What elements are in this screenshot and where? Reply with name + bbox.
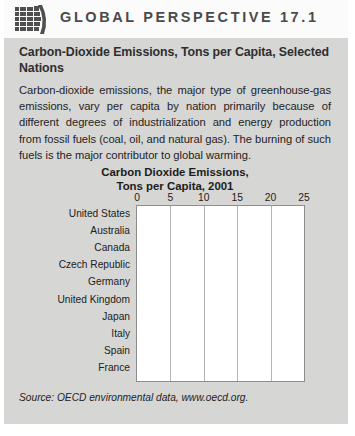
bar-row: United States [137,211,265,222]
x-tick-label-5: 5 [168,192,174,203]
bar-row: United Kingdom [137,297,200,308]
x-axis-tick-labels: 0510152025 [136,192,308,206]
bar-row: Czech Republic [137,262,214,273]
chart-title-line-1: Carbon Dioxide Emissions, [19,165,331,179]
category-label-united-kingdom: United Kingdom [58,294,131,305]
header-title: GLOBAL PERSPECTIVE 17.1 [60,9,319,25]
source-note: Source: OECD environmental data, www.oec… [19,392,248,403]
category-label-czech-republic: Czech Republic [59,259,130,270]
header-band: GLOBAL PERSPECTIVE 17.1 [4,0,348,38]
x-tick-label-15: 15 [231,192,242,203]
bar-row: Japan [137,314,198,325]
category-label-italy: Italy [111,328,130,339]
bar-row: Germany [137,279,205,290]
chart-title: Carbon Dioxide Emissions, Tons per Capit… [19,165,331,193]
bar-chart: United StatesAustraliaCanadaCzech Republ… [136,205,306,383]
bar-rows: United StatesAustraliaCanadaCzech Republ… [136,205,306,383]
category-label-canada: Canada [94,242,130,253]
global-perspective-box: GLOBAL PERSPECTIVE 17.1 Carbon-Dioxide E… [0,0,355,436]
bar-row: France [137,365,181,376]
x-tick-label-20: 20 [265,192,276,203]
category-label-germany: Germany [88,276,130,287]
bar-row: Australia [137,228,246,239]
bar-row: Spain [137,348,183,359]
x-tick-label-10: 10 [198,192,209,203]
chart-title-line-2: Tons per Capita, 2001 [19,179,331,193]
category-label-japan: Japan [102,311,130,322]
category-label-france: France [98,362,130,373]
box-body-text: Carbon-dioxide emissions, the major type… [19,82,331,163]
bar-row: Canada [137,245,241,256]
category-label-australia: Australia [90,225,130,236]
box-title: Carbon-Dioxide Emissions, Tons per Capit… [19,44,329,76]
globe-grid-icon [14,4,50,36]
category-label-united-states: United States [69,208,130,219]
x-tick-label-25: 25 [298,192,309,203]
bar-row: Italy [137,331,188,342]
category-label-spain: Spain [104,345,130,356]
x-tick-label-0: 0 [134,192,140,203]
